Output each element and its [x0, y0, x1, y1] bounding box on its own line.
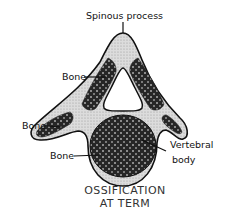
- label-vertebral-body-line2: body: [172, 154, 196, 165]
- vertebral-body-bone: [90, 115, 156, 177]
- caption-line2: AT TERM: [100, 197, 151, 210]
- label-bone-lower: Bone: [50, 150, 74, 161]
- label-bone-upper: Bone: [62, 71, 86, 82]
- vertebra-ossification-diagram: Spinous process Bone Bone Bone Vertebral…: [0, 0, 229, 212]
- caption-line1: OSSIFICATION: [84, 184, 165, 197]
- label-vertebral-body-line1: Vertebral: [170, 139, 213, 150]
- label-bone-left: Bone: [22, 120, 46, 131]
- label-spinous-process: Spinous process: [86, 10, 163, 21]
